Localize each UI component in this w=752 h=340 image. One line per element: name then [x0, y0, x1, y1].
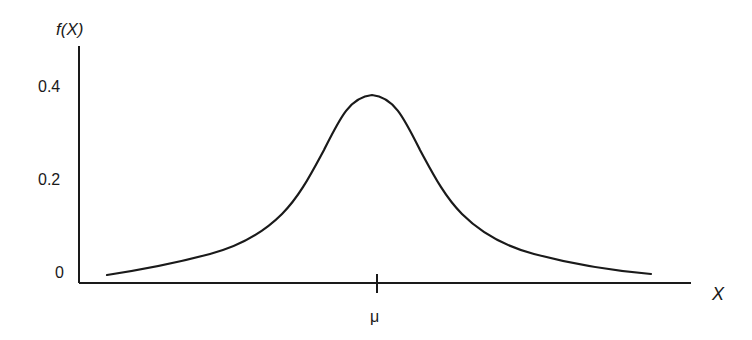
y-tick-label-0: 0 — [55, 264, 64, 282]
y-axis-label: f(X) — [56, 20, 83, 40]
y-tick-label-0.4: 0.4 — [38, 78, 60, 96]
density-curve — [107, 95, 651, 275]
chart-canvas — [0, 0, 752, 340]
x-tick-label-mu: μ — [370, 308, 379, 326]
y-tick-label-0.2: 0.2 — [38, 171, 60, 189]
x-axis-label: X — [712, 284, 724, 305]
